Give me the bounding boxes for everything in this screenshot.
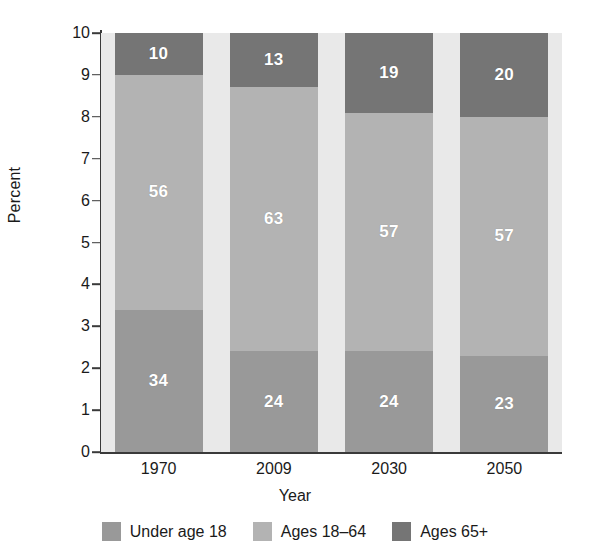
y-axis-title: Percent [6, 135, 24, 255]
x-axis-tick-1970: 1970 [115, 460, 203, 478]
bar-segment: 57 [460, 117, 548, 356]
bar-value-label: 10 [149, 44, 169, 64]
bar-value-label: 19 [379, 63, 399, 83]
y-axis-tick-9: 9 [56, 66, 90, 84]
bar-value-label: 20 [495, 65, 515, 85]
y-axis-tickmark [92, 409, 100, 411]
legend-item-2[interactable]: Ages 65+ [392, 522, 488, 541]
bar-segment: 57 [345, 113, 433, 352]
bar-2009[interactable]: 136324 [230, 33, 318, 452]
chart-figure: Percent 012345678910 1056341363241957242… [0, 0, 590, 557]
y-axis-tickmark [92, 284, 100, 286]
legend-label: Ages 65+ [420, 523, 488, 541]
bar-segment: 10 [115, 33, 203, 75]
x-axis-tick-2030: 2030 [345, 460, 433, 478]
y-axis-tickmark [92, 242, 100, 244]
bar-segment: 24 [230, 351, 318, 452]
y-axis-tick-5: 5 [56, 234, 90, 252]
bar-value-label: 56 [149, 182, 169, 202]
bar-value-label: 57 [379, 222, 399, 242]
y-axis-tickmark [92, 451, 100, 453]
bar-value-label: 24 [379, 392, 399, 412]
x-axis-line [100, 452, 562, 454]
bar-value-label: 13 [264, 50, 284, 70]
bar-1970[interactable]: 105634 [115, 33, 203, 452]
y-axis-tick-4: 4 [56, 275, 90, 293]
bar-segment: 56 [115, 75, 203, 310]
y-axis-tickmark [92, 116, 100, 118]
y-axis-tickmark [92, 158, 100, 160]
y-axis-tickmark [92, 200, 100, 202]
legend-label: Under age 18 [130, 523, 227, 541]
y-axis-tick-8: 8 [56, 108, 90, 126]
bar-value-label: 23 [495, 394, 515, 414]
y-axis-tickmark [92, 326, 100, 328]
bar-value-label: 24 [264, 392, 284, 412]
y-axis-tick-7: 7 [56, 150, 90, 168]
x-axis-tick-2009: 2009 [230, 460, 318, 478]
bar-segment: 24 [345, 351, 433, 452]
x-axis-title: Year [0, 487, 590, 505]
bar-segment: 20 [460, 33, 548, 117]
y-axis-tick-1: 1 [56, 401, 90, 419]
y-axis-tick-0: 0 [56, 443, 90, 461]
y-axis-tick-labels: 012345678910 [56, 33, 90, 452]
y-axis-tick-6: 6 [56, 192, 90, 210]
y-axis-tickmark [92, 32, 100, 34]
legend-label: Ages 18–64 [281, 523, 366, 541]
legend-swatch-icon [392, 522, 411, 541]
bar-value-label: 63 [264, 209, 284, 229]
legend-swatch-icon [253, 522, 272, 541]
chart-legend: Under age 18Ages 18–64Ages 65+ [0, 522, 590, 541]
legend-item-0[interactable]: Under age 18 [102, 522, 227, 541]
bar-segment: 23 [460, 356, 548, 452]
legend-swatch-icon [102, 522, 121, 541]
bar-segment: 19 [345, 33, 433, 113]
y-axis-tick-10: 10 [56, 24, 90, 42]
bar-segment: 13 [230, 33, 318, 87]
bar-2050[interactable]: 205723 [460, 33, 548, 452]
y-axis-tickmark [92, 367, 100, 369]
bar-value-label: 34 [149, 371, 169, 391]
bar-2030[interactable]: 195724 [345, 33, 433, 452]
bar-segment: 63 [230, 87, 318, 351]
x-axis-tick-2050: 2050 [460, 460, 548, 478]
x-axis-tick-labels: 1970200920302050 [101, 460, 562, 484]
y-axis-tick-2: 2 [56, 359, 90, 377]
legend-item-1[interactable]: Ages 18–64 [253, 522, 366, 541]
y-axis-tick-3: 3 [56, 317, 90, 335]
plot-area: 105634136324195724205723 [101, 33, 562, 452]
bar-value-label: 57 [495, 226, 515, 246]
bar-segment: 34 [115, 310, 203, 452]
y-axis-tickmark [92, 74, 100, 76]
